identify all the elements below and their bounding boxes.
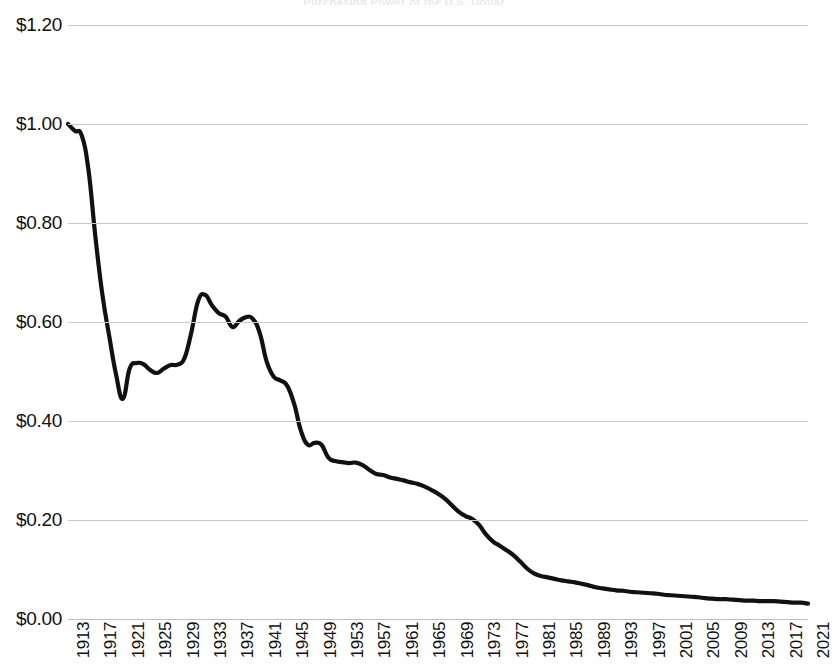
gridline-$0.20 [68,520,808,521]
gridline-$0.60 [68,322,808,323]
gridline-$1.20 [68,25,808,26]
x-tick-label: 1913 [74,622,94,658]
y-axis-labels: $0.00$0.20$0.40$0.60$0.80$1.00$1.20 [0,0,62,672]
x-tick-label: 1941 [266,622,286,658]
x-tick-label: 1989 [595,622,615,658]
x-tick-label: 1977 [513,622,533,658]
x-tick-label: 2005 [704,622,724,658]
y-tick-label: $0.40 [16,410,62,432]
gridline-$0.00 [68,619,808,620]
x-tick-label: 1949 [321,622,341,658]
x-tick-label: 1917 [101,622,121,658]
x-tick-label: 2021 [814,622,834,658]
gridline-$0.80 [68,223,808,224]
line-series [68,0,808,672]
x-tick-label: 2013 [759,622,779,658]
x-tick-label: 1937 [238,622,258,658]
x-tick-label: 1925 [156,622,176,658]
x-tick-label: 1965 [430,622,450,658]
gridline-$0.40 [68,421,808,422]
x-tick-label: 1981 [540,622,560,658]
x-tick-label: 1953 [348,622,368,658]
y-tick-label: $0.60 [16,311,62,333]
x-tick-label: 1993 [622,622,642,658]
y-tick-label: $0.00 [16,608,62,630]
x-tick-label: 1961 [403,622,423,658]
x-tick-label: 1929 [184,622,204,658]
x-tick-label: 1933 [211,622,231,658]
gridline-$1.00 [68,124,808,125]
x-tick-label: 1985 [567,622,587,658]
x-tick-label: 1997 [650,622,670,658]
x-tick-label: 1921 [129,622,149,658]
y-tick-label: $0.20 [16,509,62,531]
plot-area [68,0,808,672]
y-tick-label: $1.00 [16,113,62,135]
purchasing-power-line [68,124,808,604]
x-tick-label: 1957 [375,622,395,658]
x-tick-label: 2009 [732,622,752,658]
x-axis-labels: 1913191719211925192919331937194119451949… [68,622,808,672]
x-tick-label: 2001 [677,622,697,658]
x-tick-label: 2017 [787,622,807,658]
y-tick-label: $0.80 [16,212,62,234]
x-tick-label: 1973 [485,622,505,658]
y-tick-label: $1.20 [16,14,62,36]
x-tick-label: 1945 [293,622,313,658]
x-tick-label: 1969 [458,622,478,658]
